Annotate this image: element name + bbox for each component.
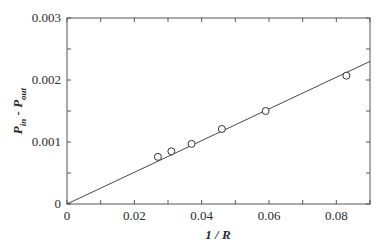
y-tick-label: 0.001 bbox=[32, 134, 61, 149]
linear-fit-line bbox=[67, 61, 370, 204]
y-tick-label: 0 bbox=[55, 196, 62, 211]
y-tick-label: 0.002 bbox=[32, 72, 61, 87]
x-tick-label: 0.08 bbox=[325, 208, 348, 223]
x-tick-label: 0.04 bbox=[190, 208, 213, 223]
data-point-marker bbox=[154, 153, 161, 160]
x-axis-ticks bbox=[67, 18, 370, 204]
data-point-marker bbox=[188, 140, 195, 147]
y-axis-title: Pin - Pout bbox=[10, 87, 28, 134]
y-tick-label: 0.003 bbox=[32, 10, 61, 25]
y-axis-ticks bbox=[67, 18, 370, 204]
data-point-marker bbox=[168, 148, 175, 155]
data-point-marker bbox=[218, 125, 225, 132]
chart: 00.020.040.060.08 00.0010.0020.003 1 / R… bbox=[0, 0, 380, 247]
plot-frame bbox=[67, 18, 370, 204]
x-tick-label: 0.06 bbox=[258, 208, 281, 223]
data-point-marker bbox=[343, 72, 350, 79]
x-axis-title: 1 / R bbox=[205, 227, 231, 242]
y-axis-tick-labels: 00.0010.0020.003 bbox=[32, 10, 61, 211]
x-axis-tick-labels: 00.020.040.060.08 bbox=[64, 208, 348, 223]
x-tick-label: 0.02 bbox=[123, 208, 146, 223]
data-point-marker bbox=[262, 108, 269, 115]
x-tick-label: 0 bbox=[64, 208, 71, 223]
data-points bbox=[154, 72, 350, 160]
